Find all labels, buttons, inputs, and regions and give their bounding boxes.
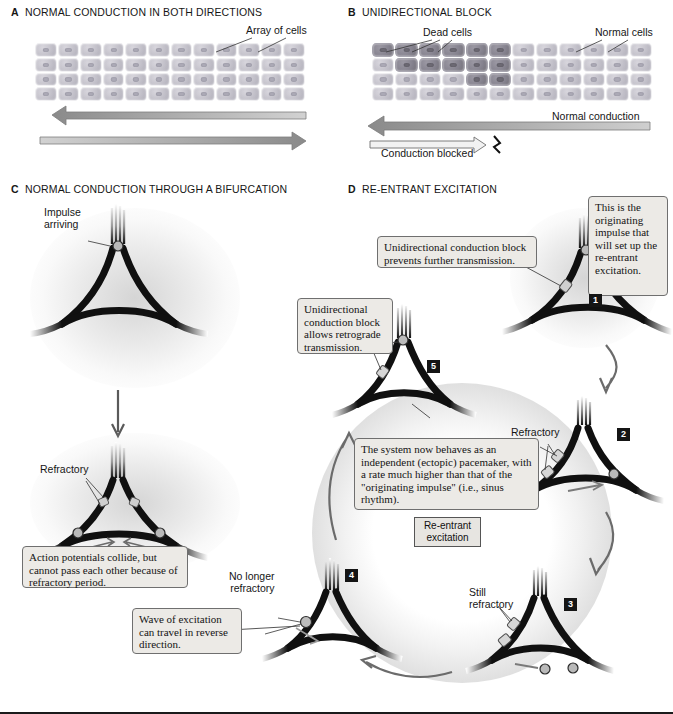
step-badge-4: 4	[345, 569, 358, 582]
callout-block-prevents-transmission: Unidirectional conduction block prevents…	[377, 236, 537, 268]
step-4-fiber	[262, 558, 402, 659]
step-badge-5: 5	[427, 360, 440, 373]
label-no-longer-refractory: No longer refractory	[229, 570, 275, 594]
callout-wave-reverse-direction: Wave of excitation can travel in reverse…	[132, 608, 242, 654]
callout-originating-impulse: This is the originating impulse that wil…	[588, 196, 668, 296]
step-3-fiber	[466, 566, 614, 674]
label-refractory-step-2: Refractory	[511, 426, 559, 438]
callout-block-allows-retrograde: Unidirectional conduction block allows r…	[297, 298, 393, 354]
label-no-longer-refractory-line1: No longer	[229, 570, 275, 582]
step-badge-2: 2	[617, 428, 630, 441]
step-badge-1: 1	[589, 294, 602, 307]
tag-reentrant-line1: Re-entrant	[424, 520, 471, 531]
label-still-refractory: Still refractory	[469, 586, 513, 610]
label-still-refractory-line1: Still	[469, 586, 486, 598]
label-still-refractory-line2: refractory	[469, 598, 513, 610]
step-badge-3: 3	[564, 598, 577, 611]
tag-reentrant-excitation: Re-entrant excitation	[414, 517, 481, 547]
tag-reentrant-line2: excitation	[426, 532, 468, 543]
label-no-longer-refractory-line2: refractory	[230, 582, 274, 594]
callout-system-ectopic-pacemaker: The system now behaves as an independent…	[354, 438, 539, 510]
